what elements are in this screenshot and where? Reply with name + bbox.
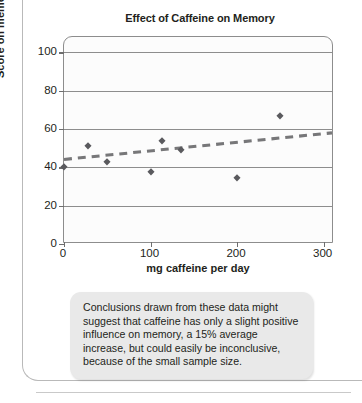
y-axis-tick-label: 60 [17, 122, 57, 134]
y-axis-tick-label: 40 [17, 160, 57, 172]
y-axis-tick-label: 80 [17, 84, 57, 96]
x-axis-title: mg caffeine per day [63, 262, 333, 274]
y-axis-title: Score on memory test [0, 0, 6, 78]
x-axis-tick-label: 200 [211, 247, 261, 259]
trendline [64, 37, 332, 242]
x-axis-tick-label: 0 [38, 247, 88, 259]
x-axis-tick [64, 242, 65, 247]
x-axis-tick-label: 100 [125, 247, 175, 259]
caption-text-box: Conclusions drawn from these data might … [70, 292, 313, 379]
x-axis-tick [151, 242, 152, 247]
chart-title: Effect of Caffeine on Memory [60, 12, 340, 24]
plot-area [63, 36, 333, 243]
x-axis-tick [237, 242, 238, 247]
y-axis-tick-label: 20 [17, 199, 57, 211]
y-axis-tick-label: 100 [17, 45, 57, 57]
x-axis-tick-label: 300 [298, 247, 348, 259]
x-axis-tick [324, 242, 325, 247]
